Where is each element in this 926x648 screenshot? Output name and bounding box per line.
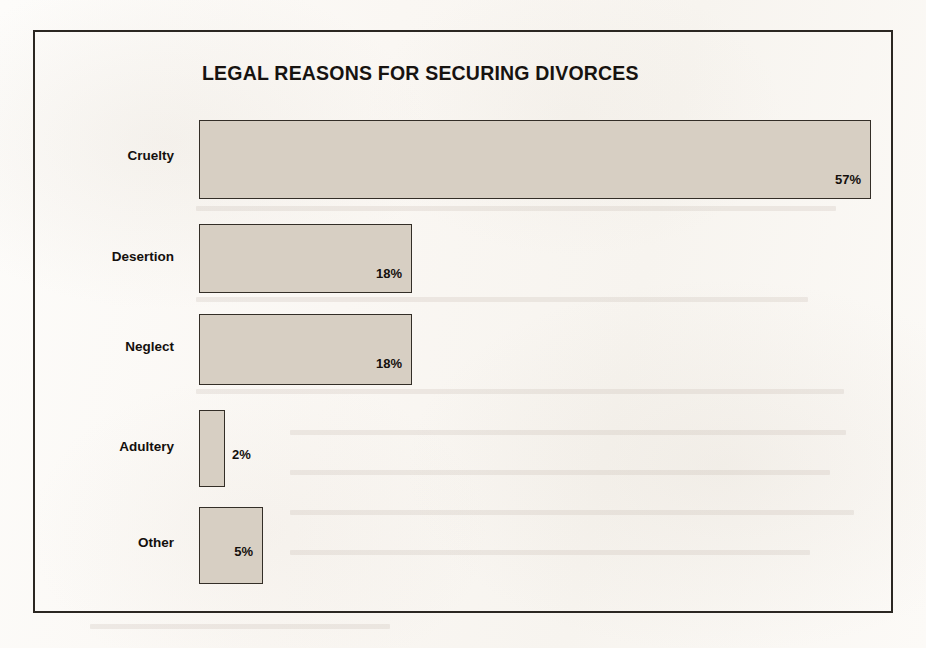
bar-adultery: 2% <box>199 410 225 487</box>
chart-frame: LEGAL REASONS FOR SECURING DIVORCES Crue… <box>33 30 893 613</box>
bar-category-label: Other <box>138 535 174 550</box>
bar-value-label: 18% <box>376 266 402 281</box>
bleed-through-text <box>90 624 390 629</box>
bar-value-label: 57% <box>835 172 861 187</box>
bar-category-label: Desertion <box>112 249 174 264</box>
page: LEGAL REASONS FOR SECURING DIVORCES Crue… <box>0 0 926 648</box>
bar-value-label: 2% <box>232 447 251 462</box>
chart-title: LEGAL REASONS FOR SECURING DIVORCES <box>202 62 639 85</box>
bar-category-label: Adultery <box>119 439 174 454</box>
bar-category-label: Cruelty <box>127 148 174 163</box>
bar-value-label: 18% <box>376 356 402 371</box>
bar-cruelty: 57% <box>199 120 871 199</box>
bar-category-label: Neglect <box>125 339 174 354</box>
bar-desertion: 18% <box>199 224 412 293</box>
bar-other: 5% <box>199 507 263 584</box>
bar-neglect: 18% <box>199 314 412 385</box>
bar-value-label: 5% <box>234 544 253 559</box>
